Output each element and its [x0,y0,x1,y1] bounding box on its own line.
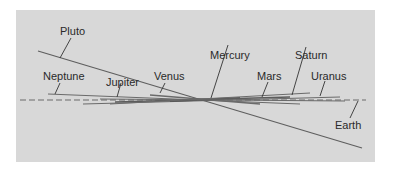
label-venus: Venus [154,71,185,82]
label-jupiter: Jupiter [106,77,139,88]
label-neptune: Neptune [43,71,85,82]
label-pluto: Pluto [60,26,85,37]
label-mercury: Mercury [210,50,250,61]
label-mars: Mars [257,71,281,82]
label-earth: Earth [335,120,361,131]
label-saturn: Saturn [295,50,327,61]
label-uranus: Uranus [311,71,346,82]
